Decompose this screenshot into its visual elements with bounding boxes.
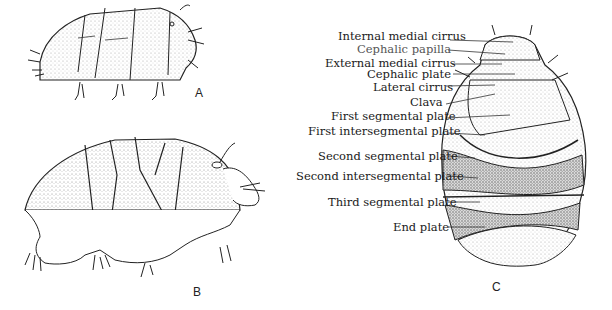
label-first-segmental-plate: First segmental plate (331, 110, 456, 122)
label-internal-medial-cirrus: Internal medial cirrus (338, 30, 466, 42)
label-second-segmental-plate: Second segmental plate (318, 150, 458, 162)
label-first-intersegmental-plate: First intersegmental plate (308, 125, 461, 137)
label-cephalic-papilla: Cephalic papilla (357, 43, 451, 55)
label-second-intersegmental-plate: Second intersegmental plate (296, 170, 464, 182)
label-cephalic-plate: Cephalic plate (367, 68, 451, 80)
label-third-segmental-plate: Third segmental plate (328, 196, 457, 208)
label-end-plate: End plate (393, 221, 449, 233)
label-clava: Clava (410, 96, 443, 108)
label-lateral-cirrus: Lateral cirrus (373, 81, 453, 93)
leader-lines (0, 0, 612, 310)
